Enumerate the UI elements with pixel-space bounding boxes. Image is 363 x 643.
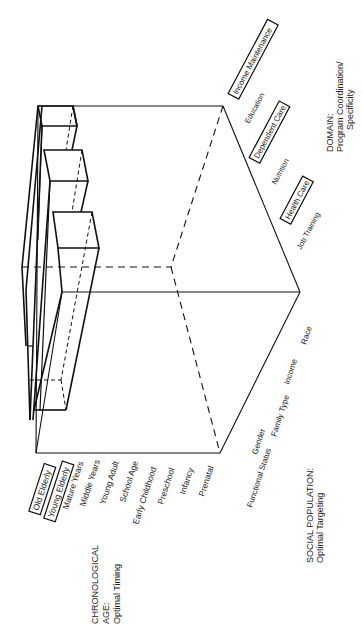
svg-text:SOCIAL POPULATION:: SOCIAL POPULATION: — [305, 468, 315, 563]
age-axis: Old Elderly Young Elderly Mature Years M… — [29, 458, 216, 525]
domain-item-nutrition: Nutrition — [270, 157, 291, 186]
svg-text:Income Maintenance: Income Maintenance — [231, 26, 274, 96]
svg-text:Optimal Timing: Optimal Timing — [112, 564, 122, 624]
svg-text:CHRONOLOGICAL: CHRONOLOGICAL — [90, 545, 100, 624]
age-item-prenatal: Prenatal — [196, 464, 215, 497]
domain-item-income-maintenance: Income Maintenance — [228, 19, 278, 99]
svg-text:Optimal Targeting: Optimal Targeting — [315, 493, 325, 563]
domain-item-job-training: Job Training — [295, 211, 322, 251]
age-item-infancy: Infancy — [177, 466, 195, 496]
cube-diagram: Old Elderly Young Elderly Mature Years M… — [0, 0, 363, 643]
age-item-preschool: Preschool — [155, 466, 176, 505]
hidden-edges — [22, 106, 223, 453]
age-item-school-age: School Age — [117, 459, 140, 503]
domain-axis: Job Training Health Care Nutrition Depen… — [228, 19, 322, 251]
svg-text:DOMAIN:: DOMAIN: — [325, 113, 335, 152]
population-item-income: Income — [282, 357, 299, 385]
population-item-race: Race — [299, 325, 314, 346]
population-item-family-type: Family Type — [269, 393, 291, 437]
domain-item-education: Education — [243, 91, 267, 125]
svg-text:AGE:: AGE: — [101, 602, 111, 624]
svg-text:Specificity: Specificity — [345, 89, 355, 130]
highlighted-blocks — [22, 106, 99, 420]
population-axis-title: SOCIAL POPULATION: Optimal Targeting — [305, 468, 325, 563]
population-item-functional-status: Functional Status — [245, 447, 273, 509]
domain-axis-title: DOMAIN: Program Coordination/ Specificit… — [325, 61, 355, 152]
age-axis-title: CHRONOLOGICAL AGE: Optimal Timing — [90, 545, 122, 624]
svg-text:Program Coordination/: Program Coordination/ — [335, 61, 345, 152]
population-axis: Functional Status Gender Family Type Inc… — [245, 325, 314, 509]
domain-item-health-care: Health Care — [280, 176, 313, 224]
svg-text:Dependent Care: Dependent Care — [252, 104, 288, 161]
